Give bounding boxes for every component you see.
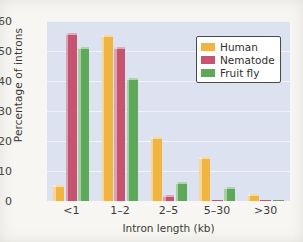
bar-highlight-left — [102, 35, 105, 202]
legend-item: Nematode — [201, 53, 275, 66]
bar-highlight-top — [224, 187, 235, 189]
y-tick-label: 10 — [0, 165, 12, 178]
bar-fruit-fly — [176, 182, 187, 202]
y-tick-label: 50 — [0, 45, 12, 58]
bar-human — [248, 194, 259, 201]
intron-length-bar-chart: Percentage of introns 0102030405060 <11–… — [0, 0, 303, 242]
y-tick-label: 60 — [0, 15, 12, 28]
bar-highlight-left — [176, 182, 179, 202]
bar-highlight-left — [127, 78, 130, 201]
bar-highlight-top — [53, 185, 64, 187]
bar-fill — [260, 200, 271, 202]
bar-fill — [212, 200, 223, 202]
bar-highlight-top — [114, 47, 125, 49]
legend-label: Human — [220, 41, 258, 53]
bar-highlight-top — [176, 182, 187, 184]
bar-highlight-top — [66, 33, 77, 35]
bar-highlight-left — [78, 47, 81, 202]
bar-fill — [273, 200, 284, 202]
bar-highlight-top — [163, 195, 174, 197]
bar-nematode — [114, 47, 125, 202]
legend-swatch-icon — [201, 56, 215, 64]
bar-nematode — [260, 200, 271, 202]
bar-fruit-fly — [127, 78, 138, 201]
y-axis-title: Percentage of introns — [12, 5, 24, 165]
x-tick-label: >30 — [236, 204, 296, 217]
y-tick-label: 30 — [0, 105, 12, 118]
legend-item: Fruit fly — [201, 66, 275, 79]
bar-highlight-left — [53, 185, 56, 202]
bar-group — [102, 21, 138, 201]
bar-highlight-top — [102, 35, 113, 37]
bar-highlight-top — [78, 47, 89, 49]
bar-nematode — [66, 33, 77, 201]
bar-highlight-left — [114, 47, 117, 202]
bar-human — [53, 185, 64, 202]
bar-nematode — [163, 195, 174, 201]
bar-highlight-top — [248, 194, 259, 196]
bar-highlight-top — [127, 78, 138, 80]
bar-group — [53, 21, 89, 201]
bar-fruit-fly — [78, 47, 89, 202]
y-tick-label: 40 — [0, 75, 12, 88]
legend-swatch-icon — [201, 43, 215, 51]
bar-group — [151, 21, 187, 201]
legend-label: Nematode — [220, 54, 275, 66]
y-tick-label: 0 — [0, 195, 12, 208]
bar-human — [199, 157, 210, 201]
legend-label: Fruit fly — [220, 67, 259, 79]
bar-fruit-fly — [273, 200, 284, 202]
chart-legend: HumanNematodeFruit fly — [196, 36, 281, 83]
legend-item: Human — [201, 40, 275, 53]
bar-highlight-left — [199, 157, 202, 201]
bar-highlight-top — [199, 157, 210, 159]
x-axis-title: Intron length (kb) — [47, 222, 290, 234]
bar-highlight-left — [66, 33, 69, 201]
bar-human — [151, 137, 162, 202]
bar-fruit-fly — [224, 187, 235, 201]
bar-highlight-left — [224, 187, 227, 201]
legend-swatch-icon — [201, 69, 215, 77]
bar-highlight-top — [151, 137, 162, 139]
bar-nematode — [212, 200, 223, 202]
bar-highlight-left — [151, 137, 154, 202]
bar-human — [102, 35, 113, 202]
y-tick-label: 20 — [0, 135, 12, 148]
